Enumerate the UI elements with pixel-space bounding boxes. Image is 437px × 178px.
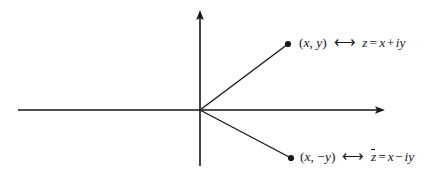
minus-operator: − — [394, 149, 405, 164]
label-point-z: (x, y)⟷z=x+iy — [299, 35, 406, 50]
imaginary-term-upper: y — [400, 35, 406, 50]
real-term-lower: x — [388, 149, 394, 164]
minus-sign-coordinate-lower: − — [317, 149, 325, 164]
point-z-conjugate-dot — [288, 155, 294, 161]
correspondence-arrow-lower: ⟷ — [335, 148, 371, 164]
equals-upper: = — [368, 35, 380, 50]
overbar-icon — [371, 149, 374, 150]
plus-operator: + — [385, 35, 396, 50]
imaginary-term-lower: y — [408, 149, 414, 164]
correspondence-arrow-upper: ⟷ — [327, 34, 363, 50]
equals-lower: = — [376, 149, 388, 164]
ray-to-point-z — [200, 44, 288, 110]
label-point-z-conjugate: (x, −y)⟷z=x−iy — [300, 149, 414, 164]
complex-plane-figure: (x, y)⟷z=x+iy (x, −y)⟷z=x−iy — [0, 0, 437, 178]
ray-to-point-z-conjugate — [200, 110, 291, 158]
point-z-dot — [285, 41, 291, 47]
symbol-z-lower: z — [371, 149, 376, 164]
symbol-z: z — [362, 35, 367, 50]
symbol-z-conjugate: z — [371, 150, 376, 164]
